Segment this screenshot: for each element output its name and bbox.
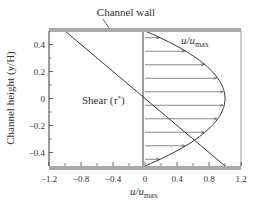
bottom-channel-wall [49,166,241,170]
y-tick-label: −0.4 [29,148,46,158]
y-tick-label: 0.4 [34,40,46,50]
x-tick-label: 0 [143,174,148,184]
y-tick-label: 0.2 [34,67,45,77]
top-channel-wall [49,28,241,32]
figure: −0.4−0.200.20.4 −1.2−0.8−0.400.40.81.2 C… [0,0,260,207]
x-tick-label: −0.4 [105,174,122,184]
velocity-label: u/umax [181,34,209,49]
velocity-hatch [145,37,223,161]
channel-wall-label: Channel wall [97,6,155,18]
y-axis-title: Channel height (y/H) [4,51,17,145]
x-tick-label: 1.2 [235,174,246,184]
channel-wall-leader [103,19,109,28]
y-tick-label: −0.2 [29,121,45,131]
x-ticks: −1.2−0.8−0.400.40.81.2 [41,162,247,184]
x-tick-label: −1.2 [41,174,57,184]
shear-label: Shear (τ*) [82,94,125,107]
x-tick-label: −0.8 [73,174,90,184]
y-tick-label: 0 [41,94,46,104]
x-tick-label: 0.8 [203,174,215,184]
x-axis-title: u/umax [130,185,158,200]
x-tick-label: 0.4 [171,174,183,184]
